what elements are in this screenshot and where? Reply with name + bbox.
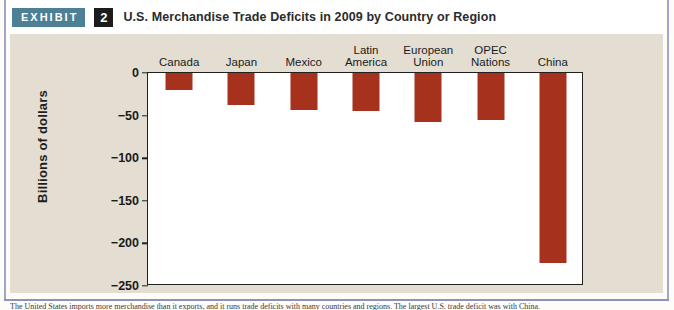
y-axis-tick-mark: [142, 285, 148, 286]
category-label: OPEC Nations: [471, 44, 510, 68]
bar: [228, 73, 255, 105]
y-axis-tick-mark: [142, 115, 148, 116]
exhibit-page: EXHIBIT 2 U.S. Merchandise Trade Deficit…: [0, 0, 674, 310]
exhibit-body: Billions of dollars CanadaJapanMexicoLat…: [10, 34, 663, 293]
category-label: Canada: [159, 56, 199, 68]
bar: [477, 73, 504, 120]
bar: [166, 73, 193, 90]
category-label: Japan: [226, 56, 257, 68]
y-axis-tick-mark: [142, 72, 148, 73]
exhibit-number-badge: 2: [94, 8, 113, 27]
bar: [290, 73, 317, 110]
exhibit-title: U.S. Merchandise Trade Deficits in 2009 …: [123, 10, 496, 24]
y-axis-tick-mark: [142, 243, 148, 244]
category-label: Mexico: [285, 56, 321, 68]
exhibit-caption: The United States imports more merchandi…: [10, 302, 665, 310]
category-label: European Union: [403, 44, 453, 68]
bar-group: Japan: [210, 73, 272, 284]
bar-group: OPEC Nations: [459, 73, 521, 284]
bar: [415, 73, 442, 122]
bar-group: Mexico: [273, 73, 335, 284]
bar-group: Canada: [148, 73, 210, 284]
bar-chart: Billions of dollars CanadaJapanMexicoLat…: [10, 34, 663, 293]
category-label: Latin America: [345, 44, 387, 68]
exhibit-header: EXHIBIT 2 U.S. Merchandise Trade Deficit…: [6, 0, 667, 34]
bar-group: China: [522, 73, 584, 284]
y-axis-tick-mark: [142, 157, 148, 158]
page-rule-left: [4, 0, 6, 300]
bar: [352, 73, 379, 111]
bar: [539, 73, 566, 263]
exhibit-badge: EXHIBIT: [12, 8, 85, 27]
page-rule-right: [667, 0, 669, 300]
category-label: China: [538, 56, 568, 68]
bar-group: Latin America: [335, 73, 397, 284]
plot-area: CanadaJapanMexicoLatin AmericaEuropean U…: [147, 72, 583, 285]
bar-group: European Union: [397, 73, 459, 284]
page-rule-bottom: [4, 299, 669, 301]
y-axis-label: Billions of dollars: [35, 67, 50, 227]
bar-series: CanadaJapanMexicoLatin AmericaEuropean U…: [148, 73, 582, 284]
y-axis-tick-mark: [142, 200, 148, 201]
